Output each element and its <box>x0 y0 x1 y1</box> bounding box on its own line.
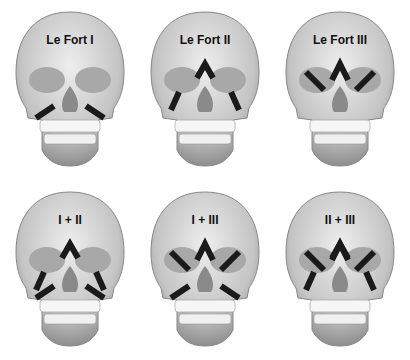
upper-teeth <box>40 120 100 132</box>
panel-label: II + III <box>272 213 408 227</box>
skull-illustration <box>137 0 273 180</box>
lower-teeth <box>314 134 366 144</box>
right-orbit <box>75 247 111 273</box>
skull-panel: II + III <box>272 180 408 360</box>
skull-panel: Le Fort I <box>2 0 138 180</box>
panel-label: I + II <box>2 213 138 227</box>
lower-teeth <box>179 314 231 324</box>
left-orbit <box>29 247 65 273</box>
skull-illustration <box>2 0 138 180</box>
lower-teeth <box>44 314 96 324</box>
skull-panel: I + II <box>2 180 138 360</box>
upper-teeth <box>175 300 235 312</box>
left-orbit <box>29 67 65 93</box>
right-orbit <box>210 67 246 93</box>
panel-label: I + III <box>137 213 273 227</box>
skull-panel: Le Fort III <box>272 0 408 180</box>
panel-label: Le Fort III <box>272 33 408 47</box>
panel-label: Le Fort I <box>2 33 138 47</box>
skull-illustration <box>272 180 408 360</box>
skull-illustration <box>137 180 273 360</box>
skull-illustration <box>272 0 408 180</box>
lower-teeth <box>179 134 231 144</box>
panel-label: Le Fort II <box>137 33 273 47</box>
upper-teeth <box>175 120 235 132</box>
upper-teeth <box>310 300 370 312</box>
skull-panel: I + III <box>137 180 273 360</box>
upper-teeth <box>310 120 370 132</box>
skull-panel: Le Fort II <box>137 0 273 180</box>
left-orbit <box>164 67 200 93</box>
skull-illustration <box>2 180 138 360</box>
right-orbit <box>75 67 111 93</box>
lower-teeth <box>314 314 366 324</box>
lower-teeth <box>44 134 96 144</box>
upper-teeth <box>40 300 100 312</box>
